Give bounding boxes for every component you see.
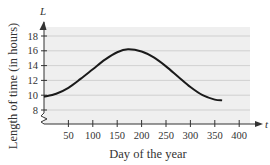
x-tick-label: 400 xyxy=(231,130,247,141)
y-tick-label: 18 xyxy=(28,31,39,42)
x-tick-label: 150 xyxy=(109,130,125,141)
y-tick-label: 16 xyxy=(28,45,39,56)
x-tick-label: 250 xyxy=(158,130,174,141)
y-tick-label: 12 xyxy=(28,75,39,86)
x-axis-title: Day of the year xyxy=(109,147,187,161)
x-tick-label: 100 xyxy=(85,130,101,141)
y-tick-label: 8 xyxy=(33,105,38,116)
x-axis-variable: t xyxy=(265,118,269,130)
x-tick-label: 350 xyxy=(207,130,223,141)
plot-area xyxy=(44,27,250,124)
x-tick-label: 50 xyxy=(63,130,74,141)
x-axis-arrow-icon xyxy=(255,121,263,127)
x-tick-label: 300 xyxy=(183,130,199,141)
line-chart: 81012141618 50100150200250300350400 L t … xyxy=(0,0,270,165)
y-axis-variable: L xyxy=(39,5,46,17)
plot-background xyxy=(44,27,250,124)
x-tick-label: 200 xyxy=(134,130,150,141)
y-tick-label: 14 xyxy=(28,60,39,71)
y-axis-arrow-icon xyxy=(40,21,47,30)
y-tick-label: 10 xyxy=(28,90,39,101)
y-axis-title: Length of time (in hours) xyxy=(6,23,20,149)
